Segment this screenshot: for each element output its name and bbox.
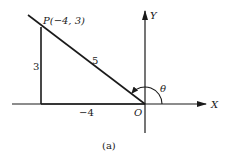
angle-label: θ	[160, 83, 166, 94]
triangle-diagram: P(−4, 3) 5 3 −4 O X Y θ (a)	[0, 0, 226, 161]
point-label: P(−4, 3)	[42, 15, 85, 26]
x-axis-label: X	[210, 99, 219, 110]
angle-arc	[132, 87, 162, 104]
hypotenuse-label: 5	[92, 55, 98, 66]
y-axis-label: Y	[150, 10, 158, 21]
hypotenuse-line	[28, 15, 145, 104]
figure-caption: (a)	[102, 140, 116, 151]
vertical-leg-label: 3	[33, 61, 39, 72]
origin-label: O	[134, 107, 142, 118]
horizontal-leg-label: −4	[79, 107, 94, 118]
